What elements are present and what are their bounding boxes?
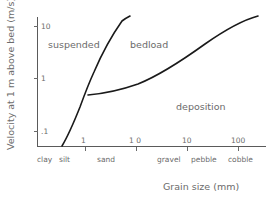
y-tick-label-10: 10 (41, 22, 51, 31)
x-tick-label-1: 1 (81, 136, 86, 145)
y-axis-ticks (34, 27, 38, 132)
y-tick-label-point1: .1 (41, 127, 48, 136)
x-class-label-pebble: pebble (191, 155, 217, 164)
x-class-label-cobble: cobble (228, 155, 253, 164)
settling-deposition-curve (88, 16, 258, 95)
hjulstrom-diagram-figure: 10 1 .1 1 1 0 10 100 clay silt sand grav… (0, 0, 274, 200)
x-axis-ticks (86, 147, 239, 151)
y-axis-title: Velocity at 1 m above bed (m/s) (5, 0, 16, 150)
x-class-label-silt: silt (59, 155, 70, 164)
x-tick-label-100: 100 (231, 136, 246, 145)
x-tick-label-10: 10 (182, 136, 192, 145)
y-tick-label-1: 1 (41, 74, 46, 83)
x-class-label-gravel: gravel (157, 155, 181, 164)
region-label-suspended: suspended (48, 39, 100, 50)
region-label-bedload: bedload (130, 39, 168, 50)
x-axis-title: Grain size (mm) (163, 181, 239, 192)
chart-canvas: 10 1 .1 1 1 0 10 100 clay silt sand grav… (0, 0, 274, 200)
region-label-deposition: deposition (176, 101, 226, 112)
x-tick-label-1-0: 1 0 (129, 136, 141, 145)
x-class-label-sand: sand (97, 155, 115, 164)
erosion-threshold-curve (62, 16, 130, 146)
x-class-label-clay: clay (37, 155, 53, 164)
